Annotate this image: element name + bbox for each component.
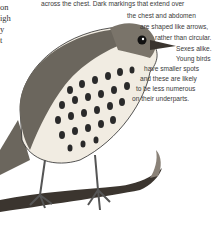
caption-line: rather than circular. — [155, 33, 211, 43]
branch — [0, 168, 162, 212]
caption-line: across the chest. Dark markings that ext… — [41, 0, 184, 9]
caption-line: and these are likely — [140, 74, 197, 84]
caption-line: have smaller spots — [144, 64, 199, 74]
caption-line: are shaped like arrows, — [140, 22, 208, 32]
caption-line: Young birds — [176, 54, 211, 64]
legs — [30, 155, 110, 210]
eye — [138, 36, 147, 45]
caption-line: to be less numerous — [136, 84, 195, 94]
caption-line: Sexes alike. — [176, 44, 212, 54]
caption-line: the chest and abdomen — [127, 11, 196, 21]
left-line: on — [0, 2, 20, 13]
caption-line: on their underparts. — [132, 94, 189, 104]
